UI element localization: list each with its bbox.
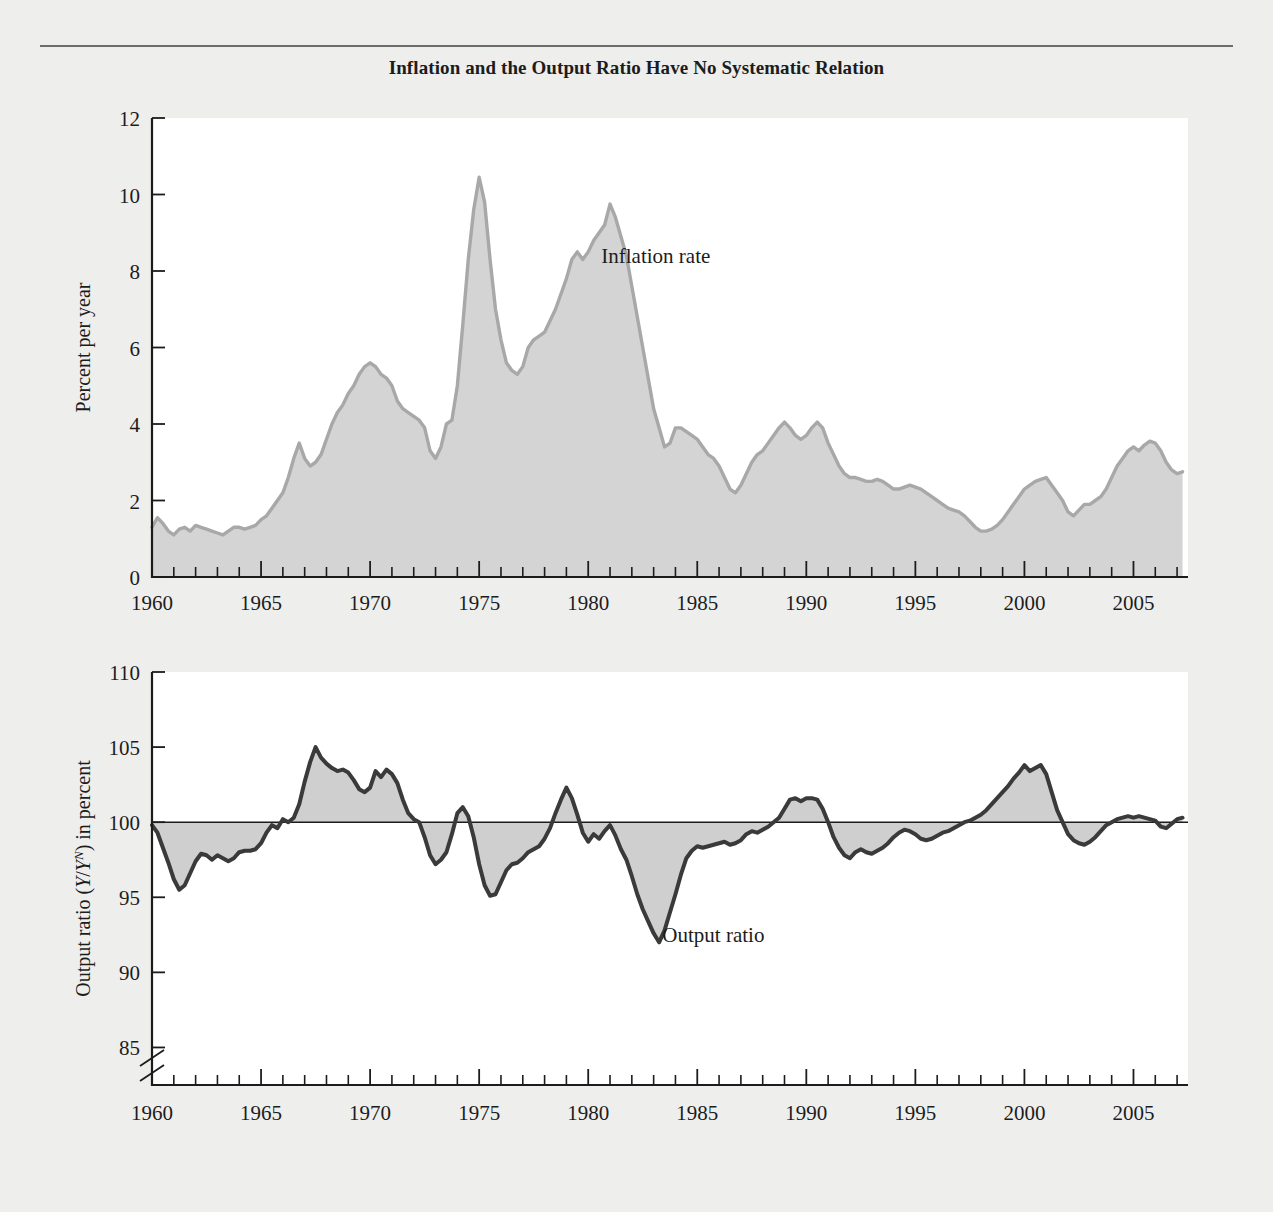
x-tick-label: 1980 bbox=[567, 1101, 609, 1125]
output-ratio-chart-svg: 8590951001051101960196519701975198019851… bbox=[60, 645, 1210, 1175]
y-tick-label: 8 bbox=[130, 260, 141, 284]
inflation-panel: 0246810121960196519701975198019851990199… bbox=[60, 95, 1210, 615]
y-tick-label: 6 bbox=[130, 337, 141, 361]
x-tick-label: 1985 bbox=[676, 1101, 718, 1125]
x-tick-label: 1965 bbox=[240, 591, 282, 615]
x-tick-label: 2005 bbox=[1112, 591, 1154, 615]
output-ratio-panel: 8590951001051101960196519701975198019851… bbox=[60, 645, 1210, 1175]
y-tick-label: 0 bbox=[130, 566, 141, 590]
y-tick-label: 10 bbox=[119, 184, 140, 208]
y-tick-label: 2 bbox=[130, 490, 141, 514]
x-tick-label: 1965 bbox=[240, 1101, 282, 1125]
y-tick-label: 110 bbox=[109, 661, 140, 685]
y-tick-label: 12 bbox=[119, 107, 140, 131]
x-tick-label: 1990 bbox=[785, 1101, 827, 1125]
inflation-chart-svg: 0246810121960196519701975198019851990199… bbox=[60, 95, 1210, 615]
x-tick-label: 1995 bbox=[894, 591, 936, 615]
x-tick-label: 1975 bbox=[458, 591, 500, 615]
output-ratio-y-axis-label: Output ratio (Y/YN) in percent bbox=[71, 760, 96, 997]
y-tick-label: 95 bbox=[119, 886, 140, 910]
y-tick-label: 105 bbox=[109, 736, 141, 760]
y-tick-label: 100 bbox=[109, 811, 141, 835]
x-tick-label: 2000 bbox=[1003, 1101, 1045, 1125]
x-tick-label: 1975 bbox=[458, 1101, 500, 1125]
y-tick-label: 90 bbox=[119, 961, 140, 985]
figure-title: Inflation and the Output Ratio Have No S… bbox=[0, 57, 1273, 79]
output-ratio-label: Output ratio bbox=[662, 923, 764, 947]
x-tick-label: 2000 bbox=[1003, 591, 1045, 615]
y-tick-label: 85 bbox=[119, 1036, 140, 1060]
x-tick-label: 1980 bbox=[567, 591, 609, 615]
x-tick-label: 1960 bbox=[131, 1101, 173, 1125]
x-tick-label: 1990 bbox=[785, 591, 827, 615]
x-tick-label: 1995 bbox=[894, 1101, 936, 1125]
x-tick-label: 1970 bbox=[349, 1101, 391, 1125]
y-tick-label: 4 bbox=[130, 413, 141, 437]
inflation-rate-label: Inflation rate bbox=[601, 244, 710, 268]
x-tick-label: 1960 bbox=[131, 591, 173, 615]
x-tick-label: 2005 bbox=[1112, 1101, 1154, 1125]
inflation-y-axis-label: Percent per year bbox=[72, 282, 95, 412]
figure-container: Inflation and the Output Ratio Have No S… bbox=[0, 0, 1273, 1212]
x-tick-label: 1970 bbox=[349, 591, 391, 615]
x-tick-label: 1985 bbox=[676, 591, 718, 615]
